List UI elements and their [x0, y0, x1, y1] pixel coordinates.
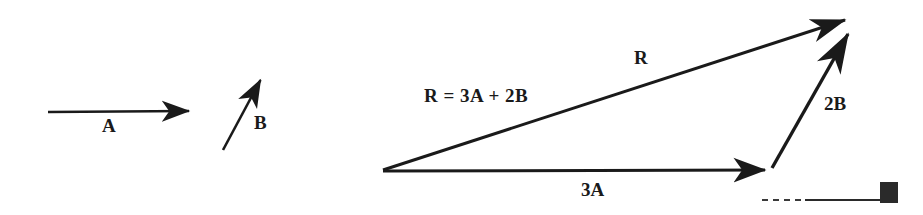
vector-2b-label: 2B [824, 94, 846, 113]
vector-3a-arrow [383, 170, 765, 171]
resultant-equation-label: R = 3A + 2B [424, 86, 528, 105]
vector-a-label: A [102, 116, 116, 135]
vector-a-arrow [48, 111, 189, 112]
vector-r-label: R [634, 48, 648, 67]
vector-3a-label: 3A [581, 180, 604, 199]
vector-b-label: B [254, 113, 267, 132]
vector-diagram-canvas [0, 0, 923, 215]
vector-figure: A B R R = 3A + 2B 2B 3A [0, 0, 923, 215]
corner-marker-square [880, 182, 898, 203]
